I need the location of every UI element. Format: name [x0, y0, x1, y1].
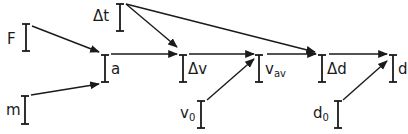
node-dv-ibeam-icon: [179, 55, 187, 82]
arrow-F-to-a: [32, 26, 99, 52]
node-a-ibeam-icon: [101, 55, 109, 82]
node-label-v0: v0: [180, 106, 195, 123]
node-label-a: a: [111, 62, 120, 77]
node-dd-ibeam-icon: [318, 55, 326, 82]
node-F-ibeam-icon: [22, 24, 30, 51]
node-label-subscript: 0: [189, 112, 195, 123]
node-label-text: d: [398, 60, 408, 78]
node-label-text: v: [265, 60, 274, 78]
node-d0-ibeam-icon: [334, 101, 342, 128]
node-label-text: F: [7, 30, 16, 48]
node-m-ibeam-icon: [21, 96, 29, 124]
node-label-text: a: [111, 60, 120, 78]
node-label-subscript: av: [274, 68, 286, 79]
node-vav-ibeam-icon: [255, 55, 263, 82]
node-label-text: Δd: [327, 60, 347, 78]
arrow-d0-to-d: [343, 61, 387, 100]
node-label-dt: Δt: [93, 9, 109, 24]
node-label-subscript: 0: [323, 112, 329, 123]
node-label-dd: Δd: [327, 62, 347, 77]
node-label-text: m: [6, 101, 21, 119]
node-d-ibeam-icon: [389, 55, 397, 82]
node-label-text: d: [313, 104, 323, 122]
arrow-m-to-a: [31, 84, 99, 95]
node-label-dv: Δv: [188, 62, 207, 77]
node-label-d0: d0: [313, 106, 329, 123]
node-label-m: m: [6, 103, 21, 118]
node-label-text: v: [180, 104, 189, 122]
edges: [31, 4, 387, 100]
node-label-text: Δv: [188, 60, 207, 78]
node-label-d: d: [398, 62, 408, 77]
node-v0-ibeam-icon: [197, 101, 205, 128]
node-dt-ibeam-icon: [116, 4, 124, 31]
node-label-vav: vav: [265, 62, 286, 79]
node-label-F: F: [7, 32, 16, 47]
arrow-v0-to-vav: [207, 59, 254, 100]
node-label-text: Δt: [93, 7, 109, 25]
